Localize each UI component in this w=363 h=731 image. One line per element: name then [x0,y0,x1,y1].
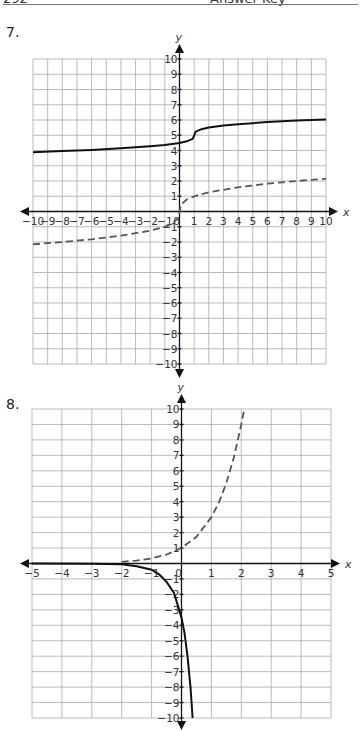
x-tick-label: 1 [191,215,198,227]
y-tick-label: −2 [162,236,177,248]
x-tick-label: −9 [40,215,55,227]
y-tick-label: 5 [173,480,180,492]
y-tick-label: 10 [166,403,179,415]
x-tick-label: 4 [298,567,305,579]
dashed-curve [122,409,245,562]
graphs-canvas: xy−10−9−8−7−6−5−4−3−2−1012345678910−10−9… [0,0,363,731]
y-tick-label: −7 [162,312,177,324]
arrow-up-icon [175,44,184,53]
y-tick-label: −7 [164,666,179,678]
x-tick-label: 4 [235,215,242,227]
y-tick-label: −9 [164,697,179,709]
x-tick-label: 6 [264,215,271,227]
y-tick-label: 1 [173,542,180,554]
x-tick-label: −4 [113,215,129,227]
y-tick-label: 4 [171,145,178,157]
x-tick-label: 2 [238,567,245,579]
y-tick-label: −6 [164,650,180,662]
y-tick-label: 2 [171,175,178,187]
y-tick-label: 6 [173,465,180,477]
y-tick-label: 7 [171,99,178,111]
x-tick-label: 3 [268,567,275,579]
x-tick-label: −2 [114,567,129,579]
arrow-up-icon [177,394,186,403]
y-tick-label: −4 [164,619,180,631]
x-tick-label: 5 [328,567,335,579]
graph-7: xy−10−9−8−7−6−5−4−3−2−1012345678910−10−9… [20,31,350,378]
y-axis-label: y [175,31,183,44]
x-tick-label: −3 [84,567,99,579]
x-tick-label: −4 [54,567,70,579]
y-tick-label: 3 [171,160,178,172]
x-tick-label: −2 [142,215,157,227]
y-tick-label: −9 [162,343,177,355]
x-tick-label: 3 [220,215,227,227]
x-axis-label: x [344,558,352,571]
x-tick-label: 5 [249,215,256,227]
y-tick-label: −6 [162,297,178,309]
x-tick-label: −8 [55,215,70,227]
arrow-down-icon [175,369,184,378]
y-tick-label: 2 [173,527,180,539]
x-tick-label: −3 [128,215,143,227]
x-tick-label: −7 [69,215,84,227]
x-tick-label: −5 [24,567,39,579]
y-tick-label: 3 [173,511,180,523]
y-tick-label: −8 [162,328,177,340]
y-tick-label: −4 [162,267,178,279]
y-tick-label: 8 [173,434,180,446]
y-tick-label: −10 [155,358,177,370]
y-tick-label: 6 [171,114,178,126]
x-axis-label: x [342,206,350,219]
y-tick-label: −8 [164,681,179,693]
y-tick-label: −3 [162,251,177,263]
x-tick-label: 1 [208,567,215,579]
y-axis-label: y [177,381,185,394]
y-tick-label: 5 [171,129,178,141]
y-tick-label: 8 [171,84,178,96]
y-tick-label: −5 [162,282,177,294]
y-tick-label: −5 [164,635,179,647]
y-tick-label: 4 [173,496,180,508]
y-tick-label: −10 [157,712,179,724]
x-tick-label: 8 [293,215,300,227]
x-tick-label: −5 [99,215,114,227]
y-tick-label: 9 [171,68,178,80]
x-tick-label: 10 [319,215,332,227]
x-tick-label: −6 [84,215,100,227]
x-tick-label: 2 [205,215,212,227]
y-tick-label: 10 [164,53,177,65]
graph-8: xy−5−4−3−2−1012345−10−9−8−7−6−5−4−3−2−11… [20,381,352,730]
x-tick-label: 7 [279,215,286,227]
y-tick-label: 1 [171,190,178,202]
y-tick-label: 9 [173,418,180,430]
x-tick-label: 9 [308,215,315,227]
y-tick-label: 7 [173,449,180,461]
